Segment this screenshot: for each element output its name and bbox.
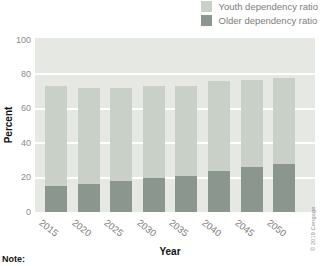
y-tick-label-60: 60 <box>0 103 31 114</box>
bar-stack-2020 <box>78 88 100 212</box>
x-tick-label-2025: 2025 <box>102 217 125 239</box>
older-segment-2045 <box>241 167 263 212</box>
youth-segment-2045 <box>241 80 263 168</box>
youth-legend-swatch <box>201 1 212 12</box>
x-tick-label-2030: 2030 <box>135 217 158 239</box>
y-tick-label-40: 40 <box>0 138 31 149</box>
legend: Youth dependency ratio Older dependency … <box>201 1 318 29</box>
chart-figure: Youth dependency ratio Older dependency … <box>0 0 321 266</box>
bar-stack-2025 <box>110 88 132 212</box>
copyright-credit: © 2019 Cengage <box>310 207 316 251</box>
y-tick-label-0: 0 <box>0 207 31 218</box>
older-segment-2050 <box>273 164 295 212</box>
youth-segment-2050 <box>273 78 295 164</box>
x-tick-label-2015: 2015 <box>37 217 60 239</box>
bar-stack-2045 <box>241 80 263 212</box>
youth-legend-label: Youth dependency ratio <box>219 1 318 12</box>
bar-stack-2015 <box>45 86 67 212</box>
bar-stack-2050 <box>273 78 295 212</box>
gridline-80 <box>35 73 315 75</box>
y-tick-label-100: 100 <box>0 35 31 46</box>
older-legend-label: Older dependency ratio <box>219 15 318 26</box>
older-segment-2020 <box>78 184 100 212</box>
youth-segment-2040 <box>208 81 230 170</box>
bar-stack-2040 <box>208 81 230 212</box>
older-segment-2035 <box>175 176 197 212</box>
x-tick-label-2050: 2050 <box>265 217 288 239</box>
bar-stack-2030 <box>143 86 165 212</box>
x-axis-title: Year <box>159 246 180 257</box>
y-tick-label-80: 80 <box>0 69 31 80</box>
x-tick-label-2020: 2020 <box>70 217 93 239</box>
x-tick-label-2035: 2035 <box>168 217 191 239</box>
older-segment-2025 <box>110 181 132 212</box>
legend-item-youth: Youth dependency ratio <box>201 1 318 12</box>
youth-segment-2015 <box>45 86 67 186</box>
note-label: Note: <box>2 254 25 264</box>
x-tick-label-2040: 2040 <box>200 217 223 239</box>
y-tick-label-20: 20 <box>0 172 31 183</box>
x-tick-label-2045: 2045 <box>233 217 256 239</box>
older-segment-2040 <box>208 171 230 212</box>
legend-item-older: Older dependency ratio <box>201 15 318 26</box>
youth-segment-2020 <box>78 88 100 184</box>
youth-segment-2030 <box>143 86 165 177</box>
plot-area <box>35 38 315 212</box>
bar-stack-2035 <box>175 86 197 212</box>
older-segment-2030 <box>143 178 165 212</box>
older-segment-2015 <box>45 186 67 212</box>
youth-segment-2025 <box>110 88 132 181</box>
older-legend-swatch <box>201 15 212 26</box>
youth-segment-2035 <box>175 86 197 175</box>
